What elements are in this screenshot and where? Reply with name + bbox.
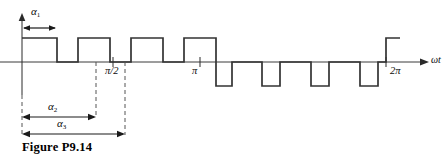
figure-p914: α1 α2 α3 π/2 π 2π ωt Figure P9.14 <box>0 0 446 160</box>
alpha-2-label: α2 <box>48 101 57 114</box>
omega-t-axis-label: ωt <box>431 55 441 65</box>
waveform-diagram <box>0 0 446 160</box>
omega-t-axis-arrowhead <box>420 59 429 66</box>
alpha-2-subscript: 2 <box>54 106 58 114</box>
alpha-3-subscript: 3 <box>63 123 67 131</box>
alpha-3-arrowhead-right <box>117 131 125 137</box>
alpha-3-arrowhead-left <box>22 131 30 137</box>
tick-label-pi-over-2: π/2 <box>105 66 118 77</box>
amplitude-axis-arrowhead <box>19 13 26 21</box>
figure-caption: Figure P9.14 <box>22 140 92 155</box>
alpha-1-subscript: 1 <box>37 11 41 19</box>
alpha-1-label: α1 <box>31 6 40 19</box>
alpha-3-label: α3 <box>57 118 66 131</box>
tick-label-pi: π <box>192 66 197 77</box>
alpha-2-arrowhead-right <box>88 114 96 120</box>
alpha-2-arrowhead-left <box>22 114 30 120</box>
alpha-1-arrowhead-right <box>49 25 56 31</box>
tick-label-two-pi: 2π <box>390 66 401 77</box>
alpha-1-arrowhead-left <box>23 25 30 31</box>
